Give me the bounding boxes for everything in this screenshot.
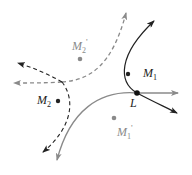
label-L: L <box>129 96 137 110</box>
solid-dark-trajectory-upper <box>124 21 154 93</box>
label-M1-prime: M1' <box>116 123 133 141</box>
point-L <box>134 90 140 96</box>
point-M2 <box>56 99 60 103</box>
point-M1-prime <box>112 116 117 121</box>
solid-dark-trajectory-lower <box>137 93 177 113</box>
label-M1: M1 <box>142 66 157 82</box>
dashed-dark-trajectory-lower <box>43 82 70 152</box>
dashed-gray-trajectory-left <box>14 82 62 83</box>
label-M2-prime: M2' <box>71 37 88 55</box>
dashed-dark-trajectory-upper <box>18 63 62 82</box>
point-M2-prime <box>78 57 83 62</box>
label-M2: M2 <box>36 93 51 109</box>
point-M1 <box>126 72 130 76</box>
phase-diagram: M1 M2 M1' M2' L <box>0 0 192 175</box>
